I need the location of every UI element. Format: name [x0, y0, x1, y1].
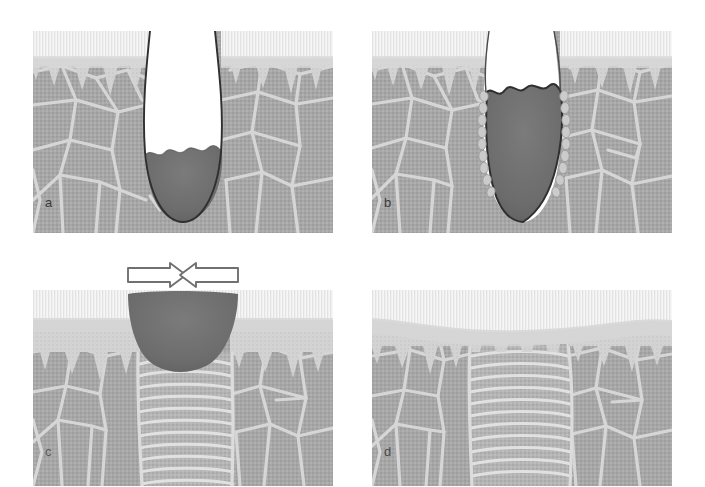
stratum-corneum-b [372, 31, 672, 68]
panel-label-c: c [45, 444, 52, 459]
wound-healing-figure: a [0, 0, 705, 487]
scar-tissue-d [469, 344, 572, 486]
arrow-right-icon [128, 263, 186, 287]
stratum-corneum-a [33, 31, 333, 68]
panel-c: c [33, 263, 333, 486]
panel-a: a [33, 31, 333, 233]
panel-label-a: a [45, 195, 53, 210]
panel-label-d: d [384, 444, 391, 459]
contraction-arrows [128, 263, 238, 287]
arrow-left-icon [180, 263, 238, 287]
panel-b: b [372, 31, 672, 233]
wound-edge-b [485, 31, 560, 92]
panel-label-b: b [384, 195, 391, 210]
panel-d: d [372, 290, 672, 486]
figure-canvas: a [0, 0, 705, 487]
scar-tissue-c [138, 352, 233, 486]
